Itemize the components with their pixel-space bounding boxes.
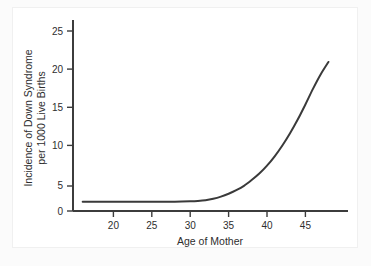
y-tick-label: 25 bbox=[52, 26, 64, 37]
y-tick-label: 0 bbox=[57, 206, 63, 217]
y-axis-tick-labels: 0 5 10 15 20 25 bbox=[52, 26, 64, 217]
x-tick-label: 20 bbox=[108, 220, 120, 231]
x-axis-title: Age of Mother bbox=[177, 235, 243, 247]
x-tick-label: 35 bbox=[223, 220, 235, 231]
x-axis-tick-labels: 20 25 30 35 40 45 bbox=[108, 220, 312, 231]
x-tick-label: 25 bbox=[146, 220, 158, 231]
x-tick-label: 30 bbox=[185, 220, 197, 231]
x-tick-label: 40 bbox=[261, 220, 273, 231]
y-axis-title-line2: per 1000 Live Births bbox=[35, 71, 47, 164]
figure-container: 0 5 10 15 20 25 20 25 30 35 40 45 Age of… bbox=[0, 0, 371, 266]
y-tick-label: 15 bbox=[52, 102, 64, 113]
chart-plot-area: 0 5 10 15 20 25 20 25 30 35 40 45 Age of… bbox=[0, 0, 371, 266]
y-axis-title-line1: Incidence of Down Syndrome bbox=[22, 49, 34, 186]
x-tick-label: 45 bbox=[300, 220, 312, 231]
data-series-line bbox=[83, 62, 329, 202]
y-tick-label: 10 bbox=[52, 140, 64, 151]
y-tick-label: 5 bbox=[57, 180, 63, 191]
y-tick-label: 20 bbox=[52, 64, 64, 75]
